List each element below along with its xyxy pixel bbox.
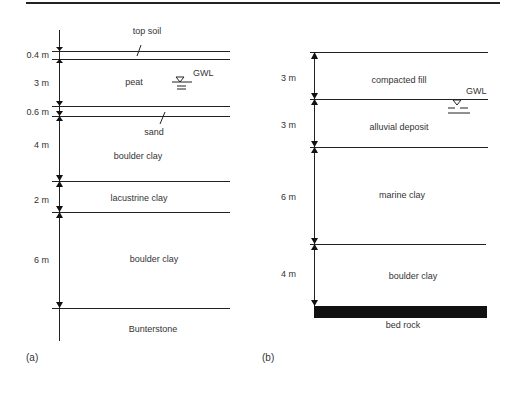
gwl-symbol-icon	[448, 100, 470, 113]
arrow-down-icon	[311, 93, 318, 99]
top-soil-leader	[137, 45, 141, 56]
arrow-up-icon	[311, 147, 318, 153]
diagram-graphics	[0, 0, 512, 396]
arrow-down-icon	[56, 101, 63, 106]
arrow-down-icon	[56, 47, 63, 51]
arrow-down-icon	[56, 302, 63, 308]
arrow-down-icon	[311, 300, 318, 306]
gwl-symbol-icon	[172, 77, 192, 89]
sand-leader	[160, 112, 165, 124]
arrow-up-icon	[311, 99, 318, 105]
arrow-up-icon	[56, 59, 63, 63]
arrow-up-icon	[56, 212, 63, 218]
arrow-down-icon	[56, 175, 63, 181]
arrow-up-icon	[311, 52, 318, 59]
arrow-down-icon	[311, 141, 318, 147]
arrow-up-icon	[56, 181, 63, 187]
arrow-up-icon	[311, 244, 318, 250]
arrow-down-icon	[56, 111, 63, 116]
arrow-down-icon	[56, 206, 63, 212]
arrow-up-icon	[56, 116, 63, 121]
arrow-down-icon	[311, 238, 318, 244]
